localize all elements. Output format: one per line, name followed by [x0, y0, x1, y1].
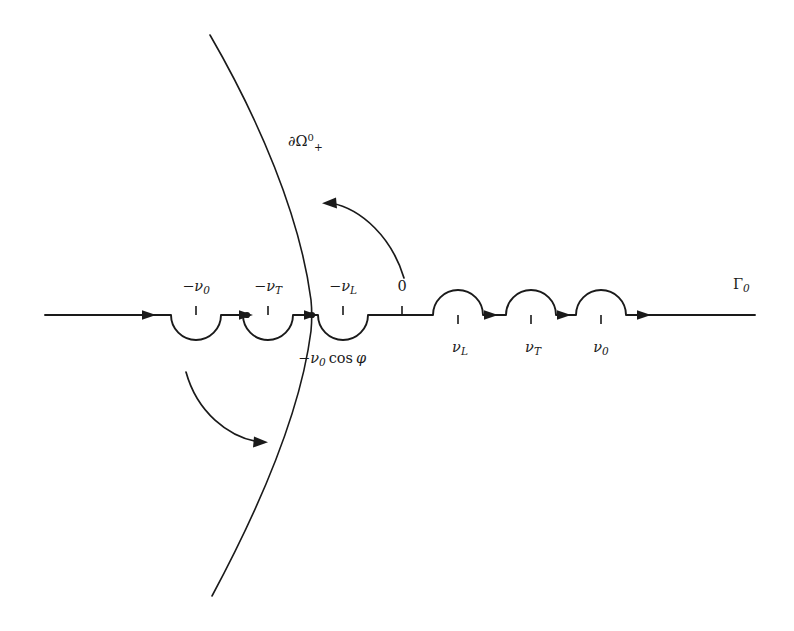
label-minus-nu-0-nu: ν	[194, 278, 203, 294]
label-contour-gamma: Γ0	[733, 276, 750, 294]
label-nu-T: νT	[525, 339, 542, 357]
upper-rotation-arrowhead	[322, 198, 337, 209]
node-dot-2	[309, 312, 315, 318]
direction-arrowhead-6	[637, 310, 651, 320]
label-nu-0-nu: ν	[593, 339, 602, 355]
label-nu-L: νL	[452, 339, 468, 357]
label-minus-nu-0-sub: 0	[203, 284, 210, 296]
label-boundary-omega-text: ∂Ω	[288, 133, 308, 149]
contour-diagram: −ν0 −νT −νL 0 νL νT ν0 ∂Ω0+ Γ0 −ν0cosφ	[0, 0, 794, 631]
label-contour-gamma-sub: 0	[743, 282, 750, 294]
label-minus-nu-0-text: −	[182, 278, 194, 294]
label-minus-nu-T-nu: ν	[266, 278, 275, 294]
label-minus-nu-T: −νT	[254, 278, 283, 296]
label-cos-phi-rest: cos	[329, 350, 353, 366]
label-cos-phi-nu: ν	[310, 350, 319, 366]
label-cos-phi-sub: 0	[319, 356, 326, 368]
label-origin: 0	[397, 278, 406, 294]
direction-arrowhead-1	[142, 310, 156, 320]
label-boundary-omega: ∂Ω0+	[288, 132, 323, 153]
label-minus-nu-0: −ν0	[182, 278, 210, 296]
label-minus-nu-T-text: −	[254, 278, 266, 294]
label-contour-gamma-text: Γ	[733, 276, 743, 292]
label-minus-nu-L-nu: ν	[341, 278, 350, 294]
label-minus-nu-T-sub: T	[275, 284, 283, 296]
label-boundary-omega-sub: +	[314, 141, 323, 153]
label-nu-L-nu: ν	[452, 339, 461, 355]
label-cos-phi-phi: φ	[356, 350, 367, 366]
label-nu-T-nu: ν	[525, 339, 534, 355]
lower-rotation-arrowhead	[253, 437, 268, 448]
upper-rotation-arrow-path	[331, 203, 404, 278]
upper-rotation-arrow	[322, 198, 404, 279]
label-minus-nu-L-sub: L	[349, 284, 357, 296]
label-minus-nu-L: −νL	[329, 278, 357, 296]
label-nu-L-sub: L	[460, 345, 468, 357]
label-cos-phi-minus: −	[298, 350, 310, 366]
lower-rotation-arrow	[186, 372, 268, 448]
label-nu-T-sub: T	[534, 345, 542, 357]
label-minus-nu-0-cos-phi: −ν0cosφ	[298, 350, 367, 368]
label-nu-0-sub: 0	[602, 345, 609, 357]
label-minus-nu-L-text: −	[329, 278, 341, 294]
label-nu-0: ν0	[593, 339, 609, 357]
direction-arrowhead-5	[557, 310, 571, 320]
direction-arrowhead-4	[484, 310, 498, 320]
lower-rotation-arrow-path	[186, 372, 259, 442]
node-dot-1	[244, 312, 250, 318]
